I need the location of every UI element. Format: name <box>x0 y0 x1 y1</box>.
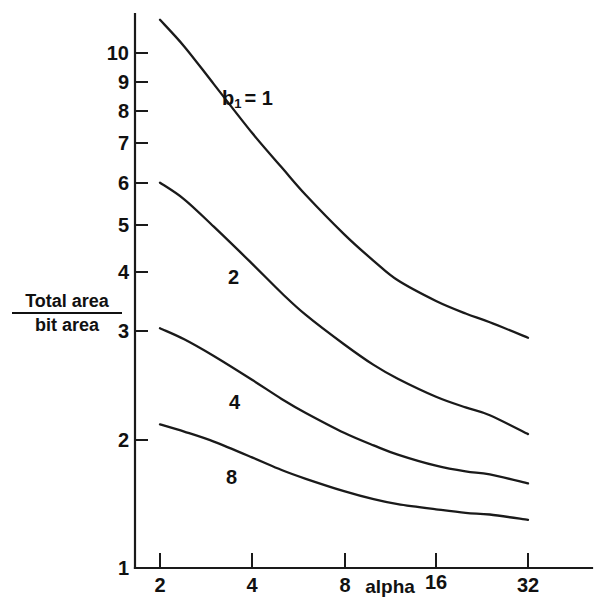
curve-b1-1 <box>160 20 528 338</box>
chart-figure: 10 9 8 7 6 5 4 3 2 1 2 4 8 16 32 alpha T… <box>0 0 606 603</box>
ytick-label-4: 4 <box>95 262 129 282</box>
xtick-label-32: 32 <box>508 575 548 595</box>
ytick-label-8: 8 <box>95 101 129 121</box>
ytick-label-2: 2 <box>95 430 129 450</box>
y-axis-title-numerator: Total area <box>12 291 122 314</box>
y-axis-ticks <box>135 53 148 440</box>
curve-label-b1-equals: = 1 <box>244 87 272 109</box>
curve-4 <box>160 328 528 483</box>
ytick-label-6: 6 <box>95 173 129 193</box>
ytick-label-1: 1 <box>95 558 129 578</box>
y-axis-title-denominator: bit area <box>12 314 122 335</box>
curve-label-b1: b1= 1 <box>222 88 273 110</box>
curve-label-b1-subscript: 1 <box>234 96 241 111</box>
x-axis-title: alpha <box>354 577 426 596</box>
y-axis-title: Total area bit area <box>12 291 122 335</box>
ytick-label-7: 7 <box>95 133 129 153</box>
ytick-label-5: 5 <box>95 215 129 235</box>
ytick-label-9: 9 <box>95 72 129 92</box>
curve-label-b1-prefix: b <box>222 87 234 109</box>
x-axis-ticks <box>160 553 528 568</box>
curve-label-4: 4 <box>229 392 240 412</box>
curve-label-2: 2 <box>228 267 239 287</box>
curve-2 <box>160 183 528 434</box>
ytick-label-10: 10 <box>95 43 129 63</box>
curve-label-8: 8 <box>226 467 237 487</box>
xtick-label-2: 2 <box>140 575 180 595</box>
xtick-label-4: 4 <box>232 575 272 595</box>
